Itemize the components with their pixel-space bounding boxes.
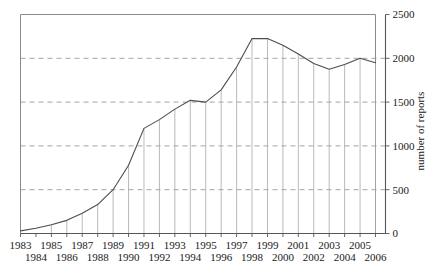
- x-tick-label-1998: 1998: [241, 251, 264, 263]
- y-tick-label-500: 500: [393, 184, 410, 196]
- x-tick-label-1984: 1984: [25, 251, 48, 263]
- x-tick-label-1986: 1986: [56, 251, 79, 263]
- series-line: [21, 39, 376, 231]
- grid-lines: [21, 58, 386, 189]
- x-tick-label-2001: 2001: [287, 239, 309, 251]
- y-axis: [386, 15, 390, 234]
- x-tick-label-2006: 2006: [365, 251, 388, 263]
- y-axis-title-text: number of reports: [414, 92, 426, 171]
- y-tick-label-2500: 2500: [393, 8, 416, 20]
- y-axis-title: number of reports: [414, 92, 426, 171]
- x-tick-label-1990: 1990: [118, 251, 141, 263]
- x-tick-label-2000: 2000: [272, 251, 295, 263]
- y-tick-label-0: 0: [393, 227, 399, 239]
- x-tick-label-1987: 1987: [71, 239, 94, 251]
- x-tick-label-1991: 1991: [133, 239, 155, 251]
- x-tick-label-1999: 1999: [256, 239, 279, 251]
- x-tick-label-1995: 1995: [195, 239, 218, 251]
- x-tick-label-2002: 2002: [303, 251, 325, 263]
- x-tick-label-1994: 1994: [179, 251, 202, 263]
- x-tick-label-2003: 2003: [318, 239, 341, 251]
- line-chart: 1983198419851986198719881989199019911992…: [0, 0, 440, 272]
- y-tick-labels: 05001000150020002500: [393, 8, 416, 239]
- x-tick-label-1985: 1985: [40, 239, 63, 251]
- x-tick-label-1993: 1993: [164, 239, 187, 251]
- x-tick-label-2005: 2005: [349, 239, 372, 251]
- x-tick-label-1992: 1992: [148, 251, 170, 263]
- y-tick-label-1500: 1500: [393, 96, 416, 108]
- x-axis: [21, 234, 386, 238]
- x-tick-label-2004: 2004: [334, 251, 357, 263]
- x-tick-label-1983: 1983: [10, 239, 33, 251]
- chart-figure: 1983198419851986198719881989199019911992…: [0, 0, 440, 272]
- data-series-reports: [21, 39, 376, 231]
- x-tick-labels: 1983198419851986198719881989199019911992…: [10, 239, 388, 263]
- x-tick-label-1997: 1997: [226, 239, 249, 251]
- plot-box: [21, 15, 376, 234]
- x-tick-label-1988: 1988: [87, 251, 110, 263]
- x-tick-label-1989: 1989: [102, 239, 125, 251]
- y-tick-label-2000: 2000: [393, 52, 416, 64]
- plot-frame: [21, 15, 376, 234]
- x-tick-label-1996: 1996: [210, 251, 233, 263]
- y-tick-label-1000: 1000: [393, 140, 416, 152]
